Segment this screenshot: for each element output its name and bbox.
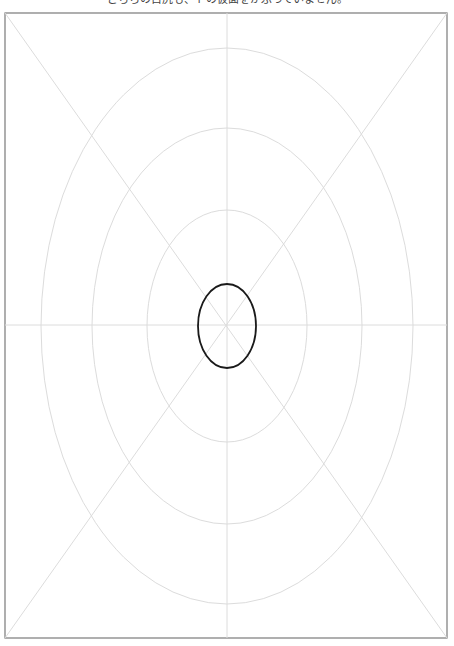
polar-grid-diagram xyxy=(0,0,454,646)
